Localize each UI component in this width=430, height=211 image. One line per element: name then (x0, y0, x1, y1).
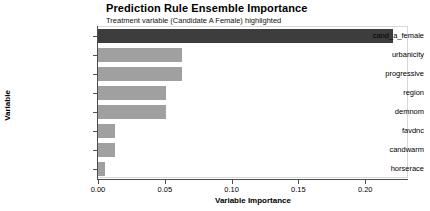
x-tick-label-0.10: 0.10 (212, 185, 252, 194)
x-tick-label-0.20: 0.20 (345, 185, 385, 194)
y-tick-mark (93, 169, 97, 170)
y-tick-mark (93, 131, 97, 132)
y-tick-mark (93, 93, 97, 94)
x-tick-mark (98, 180, 99, 184)
chart-title: Prediction Rule Ensemble Importance (106, 2, 308, 14)
y-tick-label-candwarm: candwarm (338, 145, 430, 154)
y-tick-label-favdnc: favdnc (338, 126, 430, 135)
chart-container: Prediction Rule Ensemble Importance Trea… (0, 0, 430, 211)
y-axis-title: Variable (0, 0, 14, 211)
bar-progressive (98, 67, 182, 81)
bar-urbanicity (98, 48, 182, 62)
x-axis-line (97, 179, 408, 180)
x-tick-label-0.15: 0.15 (278, 185, 318, 194)
y-tick-mark (93, 36, 97, 37)
y-tick-mark (93, 150, 97, 151)
y-tick-label-progressive: progressive (338, 69, 430, 78)
chart-subtitle: Treatment variable (Candidate A Female) … (106, 16, 281, 25)
x-tick-mark (298, 180, 299, 184)
y-tick-label-cand_a_female: cand_a_female (338, 31, 430, 40)
y-tick-label-demnom: demnom (338, 107, 430, 116)
x-tick-mark (165, 180, 166, 184)
bar-region (98, 86, 166, 100)
y-tick-mark (93, 112, 97, 113)
x-tick-label-0.05: 0.05 (145, 185, 185, 194)
x-tick-mark (232, 180, 233, 184)
x-axis-title: Variable Importance (98, 196, 408, 205)
y-axis-line (97, 26, 98, 179)
y-tick-label-urbanicity: urbanicity (338, 50, 430, 59)
x-tick-mark (365, 180, 366, 184)
bar-horserace (98, 162, 105, 176)
y-tick-label-horserace: horserace (338, 164, 430, 173)
y-tick-mark (93, 74, 97, 75)
bar-favdnc (98, 124, 115, 138)
y-tick-label-region: region (338, 88, 430, 97)
bar-demnom (98, 105, 166, 119)
x-tick-label-0.00: 0.00 (78, 185, 118, 194)
bar-candwarm (98, 143, 115, 157)
y-tick-mark (93, 55, 97, 56)
